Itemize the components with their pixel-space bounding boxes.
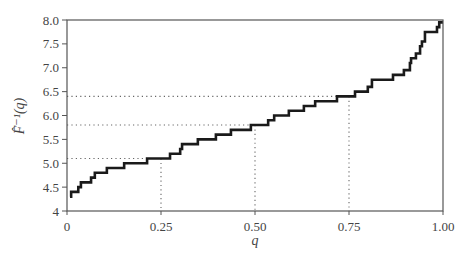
y-axis-label: F̂⁻¹(q) <box>12 97 28 135</box>
y-tick-label: 6.5 <box>43 84 59 99</box>
y-tick-label: 5.0 <box>43 156 59 171</box>
x-tick-label: 1.00 <box>432 219 455 234</box>
x-axis: 00.250.500.751.00 <box>64 211 455 234</box>
dotted-guides <box>67 96 349 211</box>
x-tick-label: 0 <box>64 219 71 234</box>
y-tick-label: 6.0 <box>43 108 59 123</box>
y-tick-label: 4 <box>53 204 60 219</box>
y-tick-label: 7.0 <box>43 60 59 75</box>
quantile-step-line <box>70 22 443 196</box>
x-axis-label: q <box>252 233 259 248</box>
y-axis: 44.55.05.56.06.57.07.58.0 <box>43 13 67 219</box>
y-tick-label: 7.5 <box>43 36 59 51</box>
y-tick-label: 8.0 <box>43 13 59 28</box>
quantile-chart: 44.55.05.56.06.57.07.58.0 00.250.500.751… <box>0 0 467 266</box>
x-tick-label: 0.25 <box>150 219 173 234</box>
y-tick-label: 4.5 <box>43 180 59 195</box>
y-tick-label: 5.5 <box>43 132 59 147</box>
x-tick-label: 0.50 <box>244 219 267 234</box>
x-tick-label: 0.75 <box>338 219 361 234</box>
